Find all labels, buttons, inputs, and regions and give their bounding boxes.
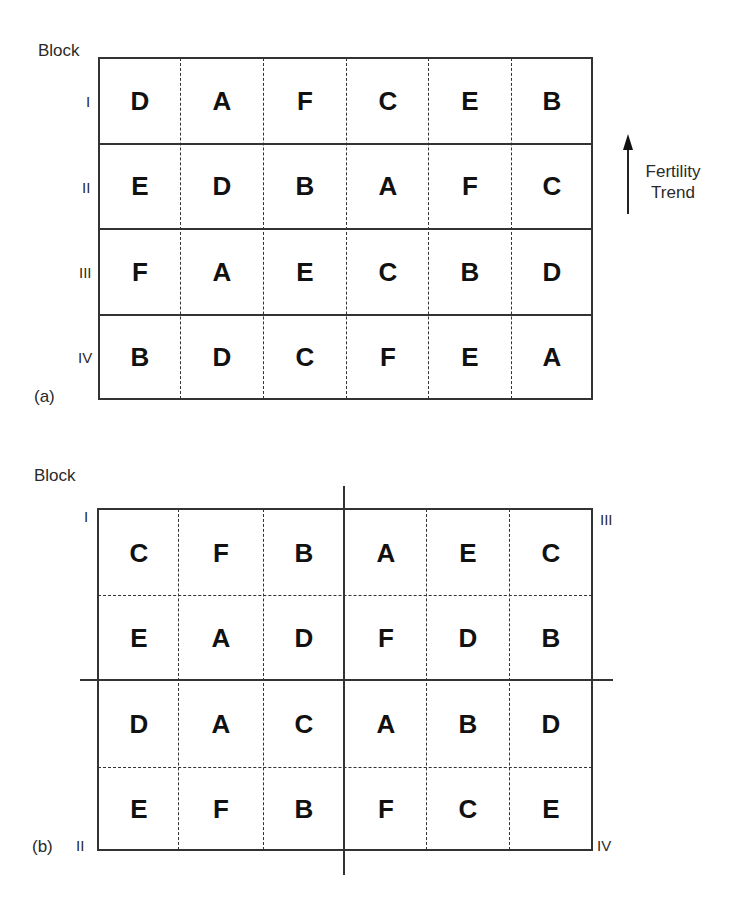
panel-a-plot-cell: F <box>99 229 181 315</box>
panel-a-block-header: Block <box>38 42 80 59</box>
panel-b-plot-cell: F <box>345 596 427 680</box>
panel-b-plot-cell: A <box>179 681 263 768</box>
panel-a-plot-cell: A <box>181 229 263 315</box>
panel-b-plot-cell: E <box>99 596 179 680</box>
panel-a-plot-cell: C <box>512 144 592 229</box>
panel-b-plot-cell: C <box>427 768 509 850</box>
panel-a-plot-cell: F <box>264 58 346 144</box>
panel-b-plot-cell: C <box>264 681 344 768</box>
panel-a-plot-cell: E <box>429 58 511 144</box>
panel-a-block-label-4: IV <box>78 350 92 365</box>
panel-a-plot-cell: C <box>347 229 429 315</box>
panel-b-plot-cell: D <box>99 681 179 768</box>
panel-a-plot-cell: D <box>181 144 263 229</box>
panel-a-plot-cell: D <box>181 315 263 399</box>
panel-a: Block I II III IV D A F C E B E D B A F … <box>0 0 740 420</box>
panel-a-plot-cell: E <box>99 144 181 229</box>
panel-b-block-label-top-left: I <box>84 509 88 524</box>
fertility-trend-label: Fertility Trend <box>638 161 708 203</box>
panel-b-block-label-bottom-right: IV <box>597 838 611 853</box>
panel-a-block-label-1: I <box>86 94 90 109</box>
panel-b-plot-cell: A <box>179 596 263 680</box>
panel-a-plot-cell: F <box>347 315 429 399</box>
panel-b-plot-cell: F <box>179 510 263 596</box>
panel-b-block-label-top-right: III <box>600 512 613 527</box>
panel-b-plot-cell: A <box>345 510 427 596</box>
panel-a-plot-cell: D <box>512 229 592 315</box>
panel-b-plot-cell: D <box>427 596 509 680</box>
panel-b-plot-cell: F <box>179 768 263 850</box>
panel-a-plot-cell: B <box>99 315 181 399</box>
panel-b-plot-cell: B <box>427 681 509 768</box>
panel-b-plot-cell: E <box>99 768 179 850</box>
panel-b-plot-cell: D <box>264 596 344 680</box>
panel-a-plot-cell: E <box>429 315 511 399</box>
panel-b-plot-cell: C <box>510 510 592 596</box>
panel-b-plot-cell: A <box>345 681 427 768</box>
panel-b-plot-cell: B <box>264 510 344 596</box>
panel-a-plot-cell: E <box>264 229 346 315</box>
panel-a-plot-cell: A <box>512 315 592 399</box>
panel-b-plot-cell: F <box>345 768 427 850</box>
panel-a-plot-cell: B <box>512 58 592 144</box>
panel-a-plot-cell: F <box>429 144 511 229</box>
panel-b-block-label-bottom-left: II <box>76 838 84 853</box>
fertility-trend-line-2: Trend <box>638 182 708 203</box>
panel-b-caption: (b) <box>32 838 53 855</box>
panel-b-plot-cell: C <box>99 510 179 596</box>
panel-a-plot-cell: B <box>429 229 511 315</box>
panel-a-plot-cell: D <box>99 58 181 144</box>
panel-a-plot-cell: C <box>264 315 346 399</box>
fertility-trend-line-1: Fertility <box>638 161 708 182</box>
panel-a-caption: (a) <box>34 388 55 405</box>
panel-b-block-header: Block <box>34 467 76 484</box>
panel-a-plot-cell: A <box>181 58 263 144</box>
panel-a-plot-cell: B <box>264 144 346 229</box>
panel-a-plot-cell: C <box>347 58 429 144</box>
fertility-trend-arrow-icon <box>620 134 636 216</box>
panel-b-plot-cell: E <box>427 510 509 596</box>
panel-b-plot-cell: D <box>510 681 592 768</box>
panel-a-block-label-2: II <box>82 180 90 195</box>
panel-a-plot-cell: A <box>347 144 429 229</box>
panel-a-block-label-3: III <box>79 265 92 280</box>
panel-b-plot-cell: B <box>510 596 592 680</box>
panel-b-plot-cell: B <box>264 768 344 850</box>
panel-b-plot-cell: E <box>510 768 592 850</box>
